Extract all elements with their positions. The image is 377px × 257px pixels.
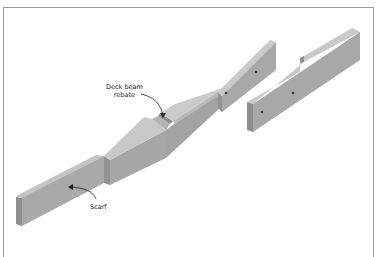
rebate-arrow xyxy=(141,94,163,116)
deck-beam-rebate-line2: rebate xyxy=(106,91,143,99)
deck-beam-rebate-label: Deck beam rebate xyxy=(106,83,143,99)
second-beam xyxy=(247,28,360,132)
scarf-label: Scarf xyxy=(90,203,107,211)
deck-beam-rebate-line1: Deck beam xyxy=(106,83,143,91)
main-beam xyxy=(16,40,276,226)
